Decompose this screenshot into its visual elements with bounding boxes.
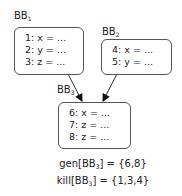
bb3-label: BB3 (57, 84, 75, 98)
bb2-line-4: 4: x = ... (112, 44, 171, 56)
bb3-line-7: 7: z = ... (69, 119, 130, 131)
gen-set: gen[BB3] = {6,8} (12, 158, 182, 173)
bb2-label-text: BB (102, 26, 116, 37)
bb3-line-8: 8: z = ... (69, 131, 130, 143)
kill-prefix: kill[BB (57, 175, 89, 186)
bb1-label: BB1 (14, 10, 32, 24)
bb2-label-sub: 2 (116, 31, 120, 38)
kill-set: kill[BB3] = {1,3,4} (12, 175, 182, 190)
bb2-line-5: 5: y = ... (112, 56, 171, 68)
gen-suffix: ] = {6,8} (100, 158, 147, 169)
bb1-box: 1: x = ... 2: y = ... 3: z = ... (14, 27, 84, 75)
bb3-line-6: 6: x = ... (69, 107, 130, 119)
bb1-label-text: BB (14, 10, 28, 21)
bb1-line-3: 3: z = ... (25, 56, 83, 68)
bb3-box: 6: x = ... 7: z = ... 8: z = ... (58, 102, 131, 149)
bb2-label: BB2 (102, 26, 120, 40)
edge-bb2-bb3 (103, 74, 117, 101)
bb1-line-2: 2: y = ... (25, 44, 83, 56)
gen-prefix: gen[BB (59, 158, 95, 169)
bb1-label-sub: 1 (28, 15, 32, 22)
bb1-line-1: 1: x = ... (25, 32, 83, 44)
bb3-label-text: BB (57, 84, 71, 95)
kill-suffix: ] = {1,3,4} (92, 175, 149, 186)
bb3-label-sub: 3 (71, 89, 75, 96)
bb2-box: 4: x = ... 5: y = ... (101, 39, 172, 75)
